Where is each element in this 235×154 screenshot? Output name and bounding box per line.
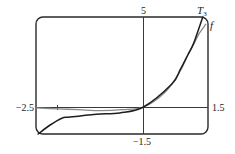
- x-min-label: −2.5: [16, 102, 34, 113]
- t3-curve-label: T3: [197, 4, 207, 18]
- f-curve-label: f: [210, 19, 215, 31]
- plot-frame: [36, 17, 208, 134]
- t3-curve: [38, 17, 203, 134]
- y-min-label: −1.5: [133, 136, 151, 147]
- t3-label-subscript: 3: [203, 10, 207, 18]
- x-max-label: 1.5: [212, 102, 225, 113]
- y-max-label: 5: [141, 5, 146, 16]
- chart: 5 −1.5 −2.5 1.5 T3 f: [0, 0, 235, 154]
- f-curve: [36, 24, 206, 110]
- curves-group: [36, 17, 206, 134]
